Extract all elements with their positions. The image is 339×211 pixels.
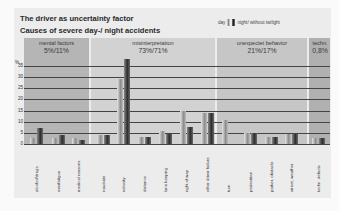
x-label: turn — [226, 148, 231, 192]
bar-night — [251, 133, 257, 144]
bar-night — [208, 113, 214, 144]
bar-day — [97, 135, 103, 144]
bar-night — [166, 134, 172, 144]
x-label: pedestrian — [248, 148, 253, 192]
y-tick: 0 — [13, 141, 23, 146]
bar-night — [104, 135, 110, 144]
bar-night — [145, 137, 151, 144]
x-label: overfatigue — [56, 148, 61, 192]
group-pct: 73%/71% — [91, 47, 215, 54]
bar-night — [319, 138, 325, 144]
x-label: distance — [142, 148, 147, 192]
group-pct: 21%/17% — [217, 47, 307, 54]
y-tick: 10 — [13, 119, 23, 124]
bar-day — [138, 137, 144, 144]
bar-day — [312, 138, 318, 144]
bar-day — [244, 133, 250, 144]
legend-day-swatch — [227, 19, 230, 26]
bar-night — [37, 128, 43, 144]
group-label: mental factors — [24, 40, 89, 46]
group-pct: 0,8% — [305, 47, 335, 54]
bar-day — [285, 134, 291, 144]
bar-night — [292, 134, 298, 144]
x-label: medical reasons — [76, 148, 81, 192]
bar-night — [124, 59, 130, 144]
y-tick: 20 — [13, 96, 23, 101]
x-label: velocity — [121, 148, 126, 192]
group-label: unexpectet behavior — [217, 40, 307, 46]
y-tick: 25 — [13, 85, 23, 90]
bar-day — [30, 138, 36, 144]
y-tick: 35 — [13, 63, 23, 68]
bar-day — [72, 138, 78, 144]
legend: day night/ without twilight — [218, 19, 280, 26]
bar-night — [187, 127, 193, 144]
y-tick: 30 — [13, 74, 23, 79]
legend-day-label: day — [218, 20, 225, 25]
x-label: lane keeping — [163, 148, 168, 192]
x-label: techn. defects — [316, 148, 321, 192]
legend-night-swatch — [232, 19, 235, 26]
gridline — [24, 144, 330, 145]
bar-day — [117, 79, 123, 144]
x-label: parker, obstacle — [269, 148, 274, 192]
legend-night-label: night/ without twilight — [237, 20, 279, 25]
chart-subtitle: Causes of severe day-/ night accidents — [20, 26, 160, 35]
x-label: roadside — [101, 148, 106, 192]
x-label: other driver failure — [205, 148, 210, 192]
bar-day — [222, 120, 228, 145]
chart-title: The driver as uncertainty factor — [20, 14, 134, 23]
group-label: misinterpretation — [91, 40, 215, 46]
bar-day — [265, 137, 271, 144]
y-tick: 15 — [13, 108, 23, 113]
bar-night — [59, 135, 65, 144]
bar-day — [52, 138, 58, 144]
bar-day — [159, 131, 165, 144]
bar-night — [79, 140, 85, 144]
x-label: right of way — [184, 148, 189, 192]
bar-night — [272, 137, 278, 144]
x-label: street, weather — [289, 148, 294, 192]
y-tick: 5 — [13, 130, 23, 135]
x-label: alcohol/drugs — [34, 148, 39, 192]
group-pct: 5%/11% — [24, 47, 89, 54]
bar-day — [201, 113, 207, 144]
bar-day — [180, 111, 186, 144]
group-label: techn. — [305, 40, 335, 46]
bars-area — [24, 66, 330, 144]
